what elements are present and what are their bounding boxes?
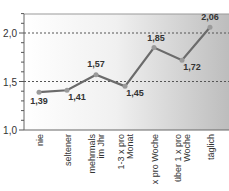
svg-text:seltener: seltener: [63, 134, 73, 166]
x-tick-label: über 1 x proWoche: [173, 134, 192, 182]
svg-text:x pro Woche: x pro Woche: [150, 134, 160, 184]
svg-text:nie: nie: [35, 134, 45, 146]
line-chart: 1,01,52,0 1,391,411,571,451,851,722,06 n…: [0, 0, 229, 191]
svg-text:im Jhr: im Jhr: [96, 134, 106, 159]
data-point: [152, 45, 157, 50]
value-label: 2,06: [201, 12, 219, 22]
data-point: [208, 25, 213, 30]
value-label: 1,39: [30, 96, 48, 106]
value-label: 1,41: [68, 92, 86, 102]
x-axis-labels: nieseltenermehrmalsim Jhr1-3 x proMonatx…: [35, 134, 216, 185]
x-tick-label: mehrmalsim Jhr: [87, 134, 106, 174]
y-tick-label: 1,0: [3, 125, 17, 136]
x-tick-label: seltener: [63, 134, 73, 166]
svg-text:täglich: täglich: [206, 134, 216, 160]
x-tick-label: nie: [35, 134, 45, 146]
x-tick-label: 1-3 x proMonat: [116, 134, 135, 170]
y-axis: 1,01,52,0: [3, 14, 24, 136]
value-label: 1,45: [126, 88, 144, 98]
svg-text:Monat: Monat: [125, 134, 135, 160]
y-tick-label: 1,5: [3, 77, 17, 88]
x-tick-label: x pro Woche: [150, 134, 160, 184]
data-point: [94, 72, 99, 77]
data-point: [37, 90, 42, 95]
svg-text:Woche: Woche: [182, 134, 192, 162]
x-tick-label: täglich: [206, 134, 216, 160]
value-label: 1,85: [147, 33, 165, 43]
value-label: 1,57: [87, 59, 105, 69]
value-label: 1,72: [183, 62, 201, 72]
y-tick-label: 2,0: [3, 28, 17, 39]
